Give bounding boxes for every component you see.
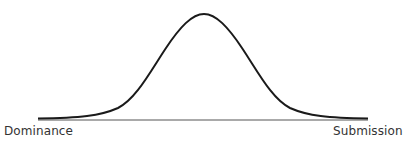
axis-label-submission: Submission <box>333 124 403 138</box>
bell-curve-diagram <box>0 0 408 144</box>
axis-label-dominance: Dominance <box>4 124 73 138</box>
bell-curve <box>38 14 368 119</box>
